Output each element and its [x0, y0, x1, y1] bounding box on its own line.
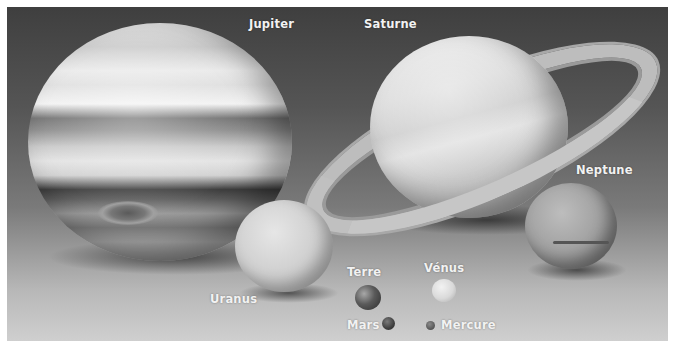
- label-jupiter: Jupiter: [249, 17, 294, 31]
- label-uranus: Uranus: [210, 292, 257, 306]
- label-mars: Mars: [347, 318, 380, 332]
- label-mercury: Mercure: [441, 318, 496, 332]
- earth-planet: [355, 285, 381, 310]
- label-venus: Vénus: [424, 261, 464, 275]
- venus-planet: [432, 279, 456, 302]
- label-saturn: Saturne: [364, 17, 417, 31]
- neptune-planet: [525, 183, 617, 269]
- neptune-dark-band: [553, 241, 609, 244]
- mars-planet: [382, 317, 395, 330]
- mercury-planet: [426, 321, 435, 330]
- label-neptune: Neptune: [576, 163, 633, 177]
- uranus-planet: [235, 200, 333, 292]
- label-earth: Terre: [347, 265, 381, 279]
- planet-comparison-scene: Jupiter Saturne Neptune Uranus Terre Vén…: [7, 7, 668, 341]
- great-red-spot: [98, 201, 158, 225]
